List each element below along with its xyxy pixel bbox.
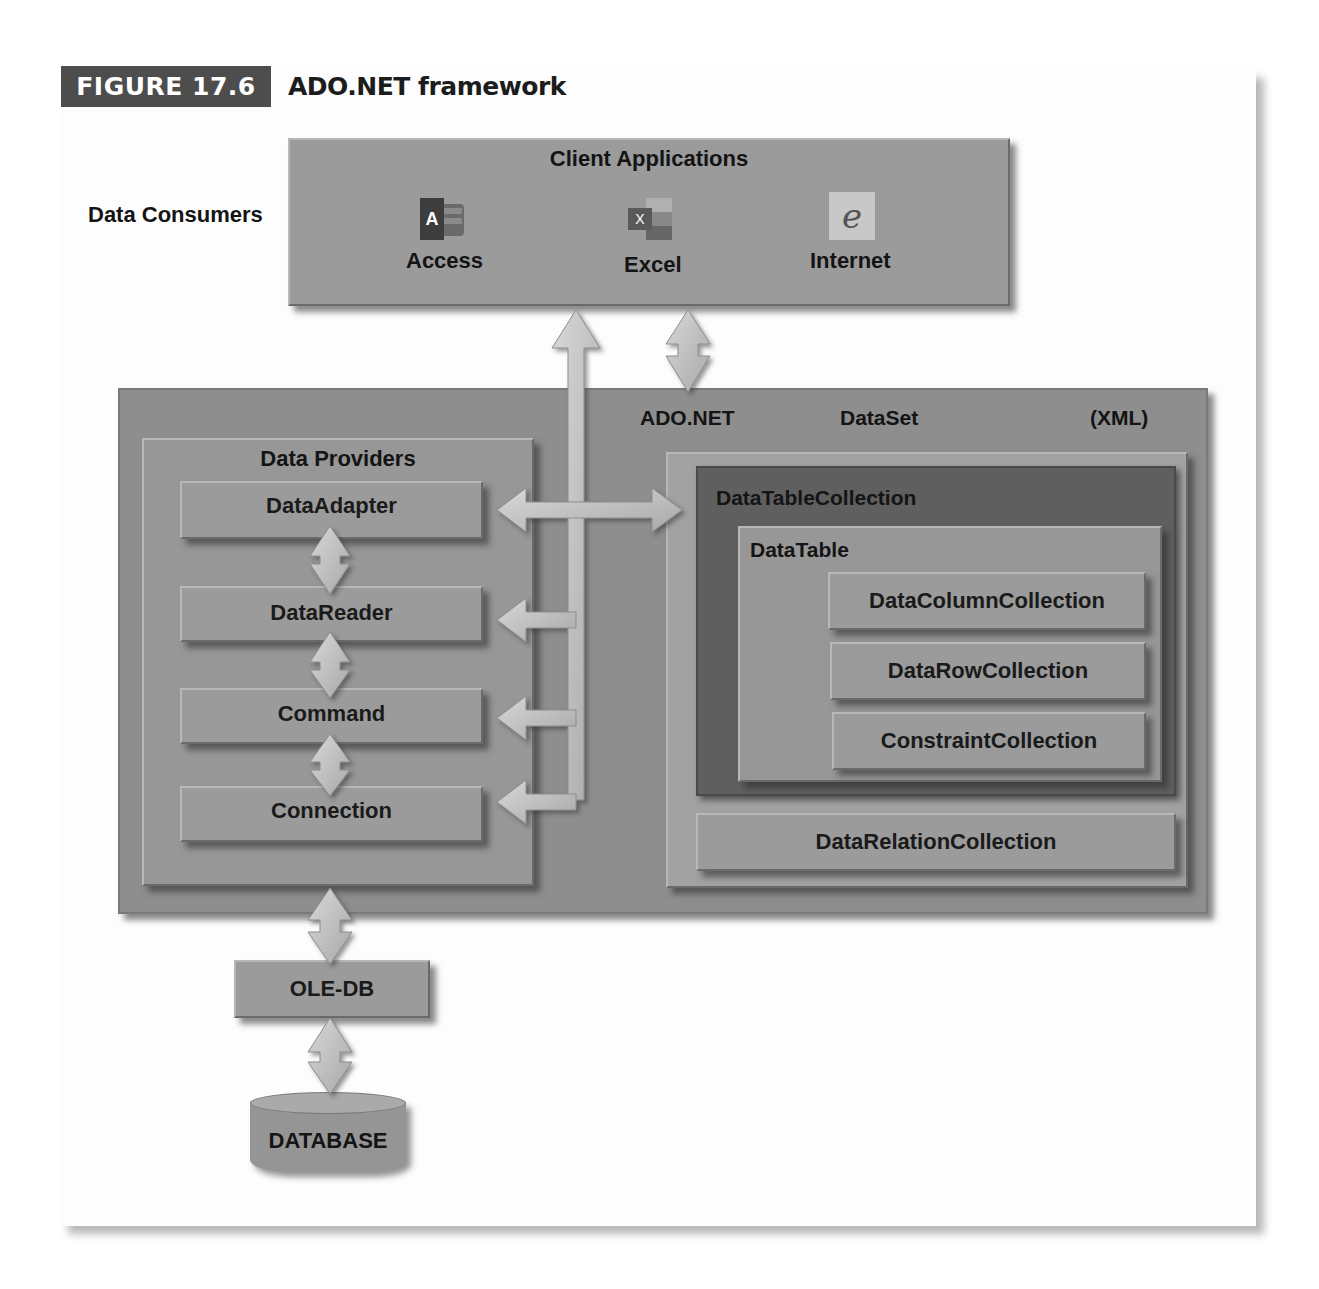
command-arrow <box>497 696 576 740</box>
command-connection-arrow <box>310 734 350 796</box>
adapter-reader-arrow <box>310 526 350 594</box>
client-dataset-arrow <box>666 310 710 392</box>
datareader-arrow <box>497 598 576 642</box>
connection-arrow <box>497 780 576 824</box>
reader-command-arrow <box>310 632 350 698</box>
providers-oledb-arrow <box>308 888 352 964</box>
oledb-database-arrow <box>308 1018 352 1094</box>
dataadapter-dataset-arrow <box>497 488 682 532</box>
connector-arrows <box>0 0 1319 1289</box>
